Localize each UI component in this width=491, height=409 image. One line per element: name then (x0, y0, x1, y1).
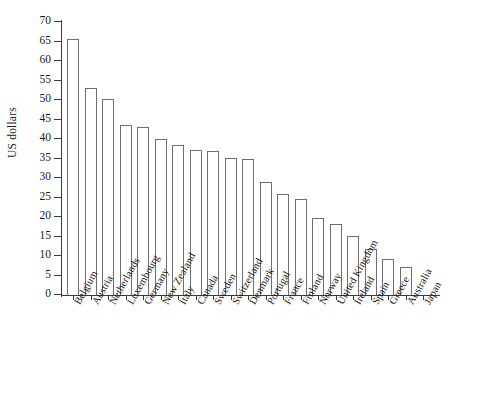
y-axis-tick-label: 25 (40, 189, 52, 204)
y-axis-tick-label: 40 (40, 130, 52, 145)
y-axis-tick: 60 (54, 60, 62, 61)
y-axis-tick-label: 30 (40, 169, 52, 184)
y-axis-tick: 45 (54, 119, 62, 120)
y-axis-tick: 65 (54, 41, 62, 42)
bar (85, 88, 97, 295)
y-axis-tick-label: 15 (40, 228, 52, 243)
y-axis-tick-label: 20 (40, 208, 52, 223)
plot-area: 0510152025303540455055606570 (62, 22, 440, 295)
y-axis-tick-label: 45 (40, 111, 52, 126)
bar-chart-figure: US dollars 0510152025303540455055606570 … (0, 0, 491, 409)
y-axis-tick: 70 (54, 21, 62, 22)
y-axis-tick-label: 5 (45, 267, 51, 282)
bar (67, 39, 79, 295)
y-axis-tick-label: 0 (45, 286, 51, 301)
y-axis-tick-label: 70 (40, 13, 52, 28)
y-axis-tick-label: 10 (40, 247, 52, 262)
bar (102, 99, 114, 295)
y-axis-tick-label: 50 (40, 91, 52, 106)
y-axis-tick: 10 (54, 255, 62, 256)
y-axis-tick: 25 (54, 197, 62, 198)
y-axis-tick: 0 (54, 294, 62, 295)
y-axis-tick: 50 (54, 99, 62, 100)
x-axis-label-group: BelgiumAustriaNetherlandsLuxembourgGerma… (62, 297, 482, 407)
y-axis-tick-label: 65 (40, 33, 52, 48)
y-axis-tick-label: 60 (40, 52, 52, 67)
bar (190, 150, 202, 295)
y-axis-tick: 15 (54, 236, 62, 237)
y-axis-tick: 35 (54, 158, 62, 159)
y-axis-tick: 5 (54, 275, 62, 276)
y-axis-tick: 20 (54, 216, 62, 217)
y-axis-tick-label: 35 (40, 150, 52, 165)
y-axis-tick: 40 (54, 138, 62, 139)
y-axis-tick: 30 (54, 177, 62, 178)
y-axis-title: US dollars (6, 58, 26, 158)
y-axis-tick-label: 55 (40, 72, 52, 87)
y-axis-tick: 55 (54, 80, 62, 81)
